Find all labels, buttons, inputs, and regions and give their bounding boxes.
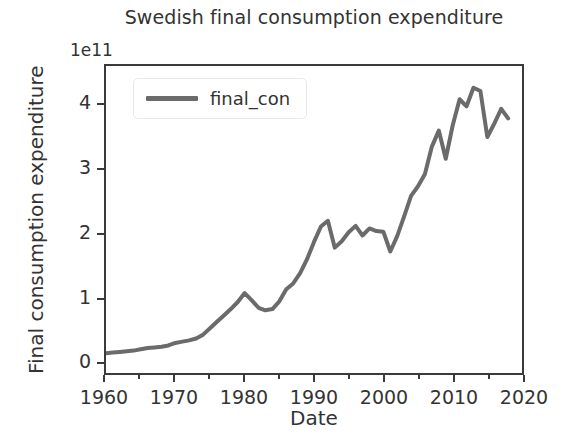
chart-title: Swedish final consumption expenditure — [104, 6, 524, 28]
y-tick-label: 0 — [79, 350, 91, 372]
x-tick-mark — [523, 375, 525, 382]
x-minor-tick-mark — [418, 375, 420, 379]
y-tick-label: 1 — [79, 286, 91, 308]
legend-line-swatch — [146, 96, 198, 101]
matplotlib-figure: Swedish final consumption expenditure 1e… — [0, 0, 569, 448]
x-tick-label: 1990 — [284, 386, 344, 408]
x-tick-label: 1970 — [144, 386, 204, 408]
x-tick-mark — [383, 375, 385, 382]
x-minor-tick-mark — [348, 375, 350, 379]
y-tick-label: 3 — [79, 156, 91, 178]
x-tick-label: 1980 — [214, 386, 274, 408]
x-tick-mark — [313, 375, 315, 382]
x-tick-mark — [453, 375, 455, 382]
series-final_con-line — [106, 88, 508, 353]
x-tick-mark — [243, 375, 245, 382]
x-tick-label: 2020 — [494, 386, 554, 408]
x-tick-label: 1960 — [74, 386, 134, 408]
y-tick-label: 2 — [79, 221, 91, 243]
y-tick-mark — [97, 362, 104, 364]
x-axis-label: Date — [104, 406, 524, 430]
x-tick-mark — [173, 375, 175, 382]
x-minor-tick-mark — [138, 375, 140, 379]
plot-area: final_con — [104, 64, 524, 375]
y-axis-label: Final consumption expenditure — [24, 65, 48, 374]
legend: final_con — [133, 78, 307, 119]
y-axis-offset-label: 1e11 — [70, 40, 113, 60]
x-tick-mark — [103, 375, 105, 382]
y-tick-mark — [97, 103, 104, 105]
x-minor-tick-mark — [278, 375, 280, 379]
x-tick-label: 2010 — [424, 386, 484, 408]
x-minor-tick-mark — [208, 375, 210, 379]
x-minor-tick-mark — [488, 375, 490, 379]
y-tick-mark — [97, 168, 104, 170]
legend-label: final_con — [210, 88, 290, 109]
x-tick-label: 2000 — [354, 386, 414, 408]
y-tick-mark — [97, 233, 104, 235]
y-tick-mark — [97, 298, 104, 300]
y-tick-label: 4 — [79, 91, 91, 113]
